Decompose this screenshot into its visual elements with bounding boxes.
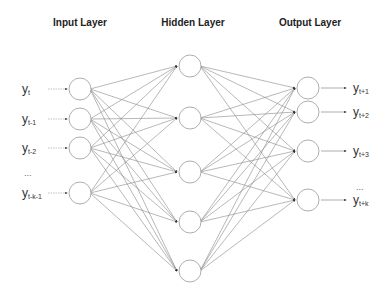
variable-label: yt xyxy=(22,82,30,96)
edge xyxy=(200,66,295,112)
edge xyxy=(200,112,295,172)
edge xyxy=(90,89,177,172)
input-node xyxy=(69,108,91,130)
input-node xyxy=(69,137,91,159)
output-node xyxy=(297,140,319,162)
edge xyxy=(90,172,177,193)
edge xyxy=(200,172,295,200)
input-node xyxy=(69,78,91,100)
edge xyxy=(90,118,177,119)
hidden-node xyxy=(179,161,201,183)
variable-label: yt+k xyxy=(353,193,369,207)
edge xyxy=(90,66,177,148)
edge xyxy=(90,66,177,119)
edge xyxy=(90,119,177,222)
edge xyxy=(90,118,177,148)
edge xyxy=(90,148,177,172)
input-node xyxy=(69,182,91,204)
edge xyxy=(200,112,295,222)
variable-label: yt-k-1 xyxy=(22,186,42,200)
edge xyxy=(200,66,295,88)
variable-label: yt-1 xyxy=(22,112,36,126)
input-ellipsis: ... xyxy=(24,168,32,178)
variable-label: yt-2 xyxy=(22,141,36,155)
edge xyxy=(90,119,177,271)
edge xyxy=(90,89,177,118)
neural-network-diagram: Input Layer Hidden Layer Output Layer yt… xyxy=(0,0,391,302)
output-layer-title: Output Layer xyxy=(279,17,341,28)
variable-label: yt+1 xyxy=(353,81,369,95)
output-ellipsis: ... xyxy=(356,182,364,192)
edge xyxy=(200,112,295,271)
hidden-layer-title: Hidden Layer xyxy=(161,17,224,28)
hidden-node xyxy=(179,55,201,77)
hidden-node xyxy=(179,107,201,129)
output-node xyxy=(297,101,319,123)
output-node xyxy=(297,77,319,99)
hidden-node xyxy=(179,211,201,233)
edge xyxy=(90,193,177,222)
input-layer-title: Input Layer xyxy=(53,17,107,28)
variable-label: yt+2 xyxy=(353,105,369,119)
edge xyxy=(90,148,177,271)
hidden-node xyxy=(179,260,201,282)
edge xyxy=(200,118,295,151)
edge xyxy=(90,119,177,172)
edge xyxy=(90,89,177,271)
output-node xyxy=(297,189,319,211)
edge xyxy=(200,88,295,118)
edge xyxy=(90,193,177,271)
edge xyxy=(90,148,177,222)
variable-label: yt+3 xyxy=(353,144,369,158)
